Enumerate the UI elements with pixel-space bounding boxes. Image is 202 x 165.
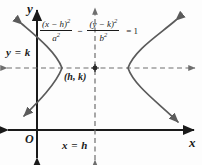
equation-numerator-2-exponent: 2 bbox=[114, 17, 117, 24]
hyperbola-equation: (x − h)2 a2 − (y − k)2 b2 = 1 bbox=[40, 18, 138, 44]
equation-denominator-2-exponent: 2 bbox=[104, 31, 107, 38]
x-axis-label: x bbox=[189, 136, 196, 149]
x-equals-h-label: x = h bbox=[62, 140, 88, 151]
center-point-label: (h, k) bbox=[64, 72, 86, 82]
equation-numerator-1: (x − h)2 bbox=[40, 18, 72, 30]
equation-first-fraction: (x − h)2 a2 bbox=[40, 18, 72, 44]
equation-denominator-1: a2 bbox=[50, 31, 62, 43]
equation-operator: − bbox=[72, 26, 87, 36]
equation-denominator-2: b2 bbox=[97, 31, 109, 43]
equation-numerator-2: (y − k)2 bbox=[87, 18, 119, 30]
y-axis-label: y bbox=[27, 2, 33, 15]
y-equals-k-label: y = k bbox=[6, 47, 31, 58]
equation-right-hand-side: = 1 bbox=[119, 26, 138, 36]
hyperbola-figure: (x − h)2 a2 − (y − k)2 b2 = 1 y x O y = … bbox=[0, 0, 202, 165]
equation-second-fraction: (y − k)2 b2 bbox=[87, 18, 119, 44]
equation-denominator-1-exponent: 2 bbox=[57, 31, 60, 38]
equation-numerator-1-exponent: 2 bbox=[67, 17, 70, 24]
origin-label: O bbox=[25, 133, 34, 145]
